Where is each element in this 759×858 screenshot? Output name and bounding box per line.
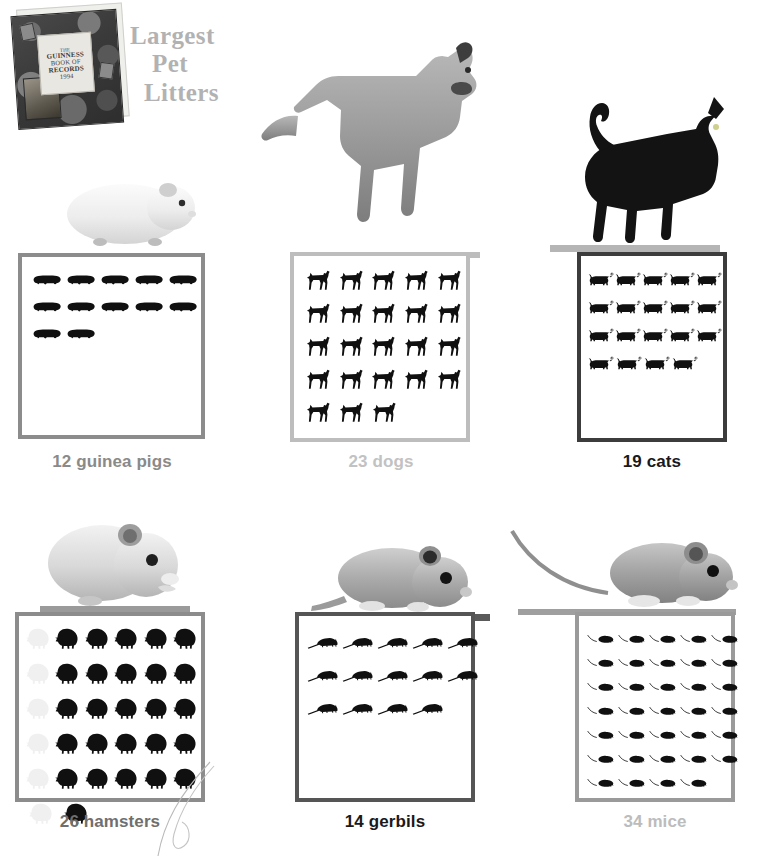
mouse-icon bbox=[618, 770, 649, 794]
mouse-icon bbox=[680, 698, 711, 722]
guinea-pig-icon bbox=[64, 321, 98, 348]
guinea-pig-icon bbox=[132, 267, 166, 294]
dog-icon bbox=[335, 297, 368, 330]
hamster-icon bbox=[142, 622, 172, 657]
guinea-pig-icon bbox=[30, 294, 64, 321]
mouse-icon bbox=[587, 698, 618, 722]
panel-label-gerbils: 14 gerbils bbox=[295, 812, 475, 832]
dog-icon bbox=[400, 363, 433, 396]
pictogram-row bbox=[587, 348, 723, 376]
cat-icon bbox=[669, 320, 696, 348]
hamster-icon bbox=[54, 692, 84, 727]
hamster-icon bbox=[142, 727, 172, 762]
dog-icon bbox=[368, 264, 401, 297]
pictogram-grid-dogs bbox=[294, 256, 466, 438]
mouse-icon bbox=[649, 674, 680, 698]
hamster-icon bbox=[113, 692, 143, 727]
pictogram-row bbox=[587, 320, 723, 348]
hamster-icon bbox=[172, 727, 202, 762]
mouse-icon bbox=[587, 722, 618, 746]
hamster-icon-ghost bbox=[24, 727, 54, 762]
dog-icon bbox=[368, 396, 401, 429]
mouse-icon bbox=[680, 650, 711, 674]
pictogram-row bbox=[587, 626, 723, 650]
mouse-icon bbox=[649, 698, 680, 722]
mouse-icon bbox=[711, 722, 742, 746]
hamster-icon-ghost bbox=[24, 762, 54, 797]
dog-icon bbox=[335, 363, 368, 396]
mouse-icon bbox=[587, 626, 618, 650]
cat-icon bbox=[587, 264, 614, 292]
mouse-icon bbox=[711, 650, 742, 674]
dog-icon bbox=[335, 264, 368, 297]
hamster-icon bbox=[172, 622, 202, 657]
guinea-pig-icon bbox=[98, 294, 132, 321]
dog-icon bbox=[335, 330, 368, 363]
cat-icon bbox=[641, 264, 668, 292]
book-stamp-icon bbox=[98, 62, 114, 80]
cat-icon bbox=[587, 292, 614, 320]
infographic-canvas: THE GUINNESS BOOK OF RECORDS 1994 Larges… bbox=[0, 0, 759, 858]
cat-icon bbox=[641, 292, 668, 320]
gerbil-icon bbox=[447, 659, 482, 692]
pictogram-row bbox=[30, 321, 201, 348]
mouse-photo bbox=[510, 525, 740, 617]
mouse-icon bbox=[618, 674, 649, 698]
guinea-pig-icon bbox=[166, 294, 200, 321]
pictogram-grid-hamsters bbox=[19, 616, 201, 798]
gerbil-icon bbox=[412, 692, 447, 725]
pictogram-grid-cats bbox=[581, 256, 723, 438]
dog-icon bbox=[302, 297, 335, 330]
cat-icon bbox=[669, 264, 696, 292]
dog-icon bbox=[433, 363, 466, 396]
guinea-pig-icon bbox=[30, 267, 64, 294]
pictogram-row bbox=[307, 626, 463, 659]
dog-icon bbox=[335, 396, 368, 429]
hamster-icon bbox=[142, 762, 172, 797]
hamster-icon-ghost bbox=[24, 622, 54, 657]
panel-label-dogs: 23 dogs bbox=[292, 452, 470, 472]
mouse-icon bbox=[680, 770, 711, 794]
guinea-pig-icon bbox=[132, 294, 166, 321]
mouse-icon bbox=[618, 722, 649, 746]
gerbil-icon bbox=[342, 626, 377, 659]
dog-icon bbox=[302, 363, 335, 396]
hamster-icon bbox=[54, 727, 84, 762]
pictogram-row bbox=[587, 722, 723, 746]
pictogram-row bbox=[24, 762, 201, 797]
dog-icon bbox=[302, 264, 335, 297]
mouse-icon bbox=[680, 674, 711, 698]
cat-icon bbox=[614, 292, 641, 320]
hamster-icon bbox=[83, 692, 113, 727]
mouse-icon bbox=[680, 722, 711, 746]
guinea-pig-icon bbox=[64, 267, 98, 294]
mouse-icon bbox=[587, 770, 618, 794]
pictogram-box-guinea-pigs bbox=[18, 253, 205, 439]
mouse-icon bbox=[711, 746, 742, 770]
pictogram-row bbox=[587, 674, 723, 698]
great-dane-photo bbox=[250, 30, 500, 260]
pictogram-grid-mice bbox=[579, 616, 731, 798]
gerbil-icon bbox=[412, 659, 447, 692]
gerbil-icon bbox=[307, 659, 342, 692]
cat-icon bbox=[696, 292, 723, 320]
dog-icon bbox=[368, 330, 401, 363]
book-cover: THE GUINNESS BOOK OF RECORDS 1994 bbox=[10, 9, 124, 130]
gerbil-icon bbox=[377, 659, 412, 692]
hamster-icon bbox=[83, 727, 113, 762]
hamster-icon bbox=[83, 622, 113, 657]
pictogram-row bbox=[24, 622, 201, 657]
black-cat-photo bbox=[530, 85, 730, 255]
dog-icon bbox=[400, 330, 433, 363]
cat-icon bbox=[671, 348, 699, 376]
gerbil-icon bbox=[447, 626, 482, 659]
gerbil-icon bbox=[412, 626, 447, 659]
gerbil-icon bbox=[307, 692, 342, 725]
hamster-icon bbox=[54, 622, 84, 657]
pictogram-row bbox=[302, 363, 466, 396]
mouse-icon bbox=[711, 698, 742, 722]
mouse-icon bbox=[618, 746, 649, 770]
pictogram-box-mice bbox=[575, 612, 735, 802]
cat-icon bbox=[587, 320, 614, 348]
panel-label-guinea-pigs: 12 guinea pigs bbox=[0, 452, 224, 472]
